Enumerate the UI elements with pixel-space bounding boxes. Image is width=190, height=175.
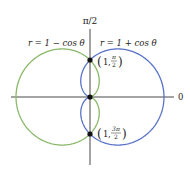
curve-label-minus: r = 1 − cos θ: [28, 38, 85, 48]
svg-text:3π: 3π: [112, 125, 121, 132]
svg-text:(: (: [97, 127, 102, 141]
svg-text:): ): [118, 55, 123, 69]
svg-text:2: 2: [112, 61, 116, 68]
curve-label-plus: r = 1 + cos θ: [100, 38, 157, 48]
point-label-top: ( 1 , π 2 ): [97, 53, 123, 69]
svg-text:(: (: [97, 55, 102, 69]
point-origin: [87, 94, 92, 99]
polar-diagram: π/2 0 r = 1 − cos θ r = 1 + cos θ ( 1 , …: [0, 0, 190, 175]
svg-text:2: 2: [114, 133, 118, 140]
point-top: [87, 57, 92, 62]
axis-label-pi-over-2: π/2: [83, 16, 98, 26]
svg-text:π: π: [111, 53, 117, 60]
svg-text:,: ,: [108, 57, 111, 67]
point-label-bottom: ( 1 , 3π 2 ): [97, 125, 127, 141]
svg-text:): ): [122, 127, 127, 141]
point-bottom: [87, 131, 92, 136]
svg-text:,: ,: [108, 129, 111, 139]
axis-label-zero: 0: [178, 92, 183, 102]
